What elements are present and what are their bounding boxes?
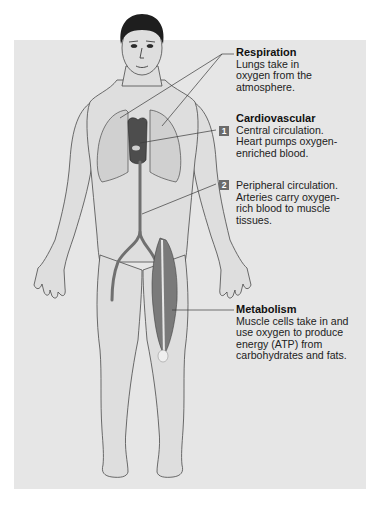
central-line-3: enriched blood.	[236, 148, 337, 160]
metabolism-title: Metabolism	[236, 304, 348, 316]
heart-valve	[132, 146, 140, 151]
cardiovascular-title: Cardiovascular	[236, 113, 337, 125]
metabolism-label: Metabolism Muscle cells take in and use …	[236, 304, 348, 362]
peripheral-circulation-label: Peripheral circulation. Arteries carry o…	[236, 180, 340, 226]
heart	[128, 118, 147, 164]
human-body-illustration	[0, 0, 377, 505]
right-arm	[34, 100, 95, 298]
badge-1: 1	[219, 126, 229, 136]
knee-cap	[158, 350, 168, 362]
peripheral-line-1: Peripheral circulation.	[236, 180, 340, 192]
respiration-title: Respiration	[236, 47, 312, 59]
respiration-label: Respiration Lungs take in oxygen from th…	[236, 47, 312, 93]
cardiovascular-label: Cardiovascular Central circulation. Hear…	[236, 113, 337, 159]
respiration-line-3: atmosphere.	[236, 82, 312, 94]
peripheral-line-4: tissues.	[236, 215, 340, 227]
right-leg	[97, 255, 142, 477]
metabolism-line-4: carbohydrates and fats.	[236, 350, 348, 362]
badge-2: 2	[219, 180, 229, 190]
